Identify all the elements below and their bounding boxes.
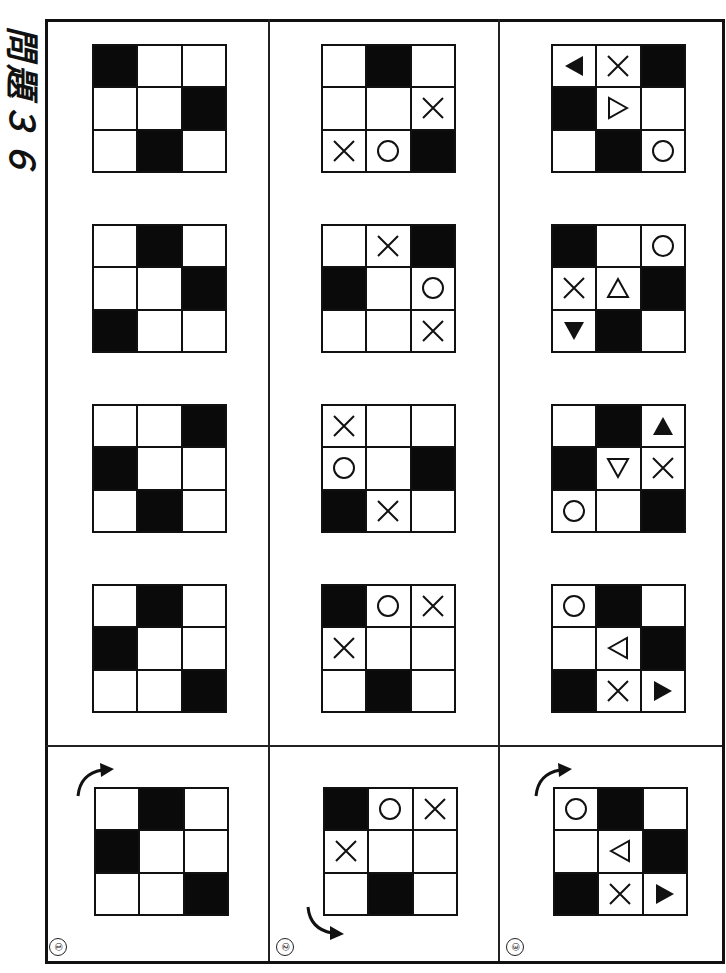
cross-icon — [559, 273, 589, 303]
option-grid-1-1[interactable] — [92, 44, 227, 173]
circle-icon — [329, 453, 359, 483]
white-cell — [642, 671, 684, 711]
white-cell — [96, 874, 138, 914]
black-cell — [183, 88, 225, 128]
circle-icon — [418, 273, 448, 303]
clockwise-arrow-icon — [74, 762, 118, 798]
black-cell — [642, 491, 684, 531]
option-grid-3-2[interactable] — [551, 224, 686, 353]
black-cell — [185, 874, 227, 914]
black-cell — [183, 406, 225, 446]
white-cell — [644, 789, 686, 829]
option-grid-3-3[interactable] — [551, 404, 686, 533]
option-grid-2-3[interactable] — [321, 404, 456, 533]
white-cell — [642, 406, 684, 446]
cross-icon — [603, 51, 633, 81]
white-cell — [183, 226, 225, 266]
black-cell — [138, 491, 180, 531]
white-cell — [94, 226, 136, 266]
column-divider — [268, 19, 270, 961]
white-cell — [642, 88, 684, 128]
white-cell — [553, 268, 595, 308]
black-cell — [553, 671, 595, 711]
white-cell — [138, 448, 180, 488]
black-cell — [138, 226, 180, 266]
white-cell — [94, 131, 136, 171]
cross-icon — [329, 411, 359, 441]
white-cell — [597, 88, 639, 128]
white-cell — [553, 46, 595, 86]
black-cell — [553, 448, 595, 488]
white-cell — [323, 46, 365, 86]
black-cell — [323, 491, 365, 531]
option-grid-2-2[interactable] — [321, 224, 456, 353]
white-cell — [642, 131, 684, 171]
white-cell — [183, 491, 225, 531]
option-grid-2-1[interactable] — [321, 44, 456, 173]
white-cell — [597, 628, 639, 668]
column-divider — [498, 19, 500, 961]
option-grid-3-1[interactable] — [551, 44, 686, 173]
black-cell — [94, 628, 136, 668]
black-cell — [599, 789, 641, 829]
option-grid-1-2[interactable] — [92, 224, 227, 353]
white-cell — [94, 586, 136, 626]
white-cell — [367, 491, 409, 531]
white-cell — [183, 311, 225, 351]
white-cell — [367, 131, 409, 171]
white-cell — [183, 628, 225, 668]
choice-number-2: ② — [276, 938, 294, 956]
counterclockwise-arrow-icon — [304, 905, 348, 941]
black-cell — [94, 448, 136, 488]
white-cell — [94, 491, 136, 531]
white-cell — [367, 88, 409, 128]
triangle-left-filled-icon — [559, 51, 589, 81]
option-grid-1-4[interactable] — [92, 584, 227, 713]
black-cell — [553, 88, 595, 128]
black-cell — [94, 311, 136, 351]
circle-icon — [561, 794, 591, 824]
clockwise-arrow-icon — [532, 762, 576, 798]
white-cell — [644, 874, 686, 914]
circle-icon — [373, 136, 403, 166]
white-cell — [94, 671, 136, 711]
black-cell — [553, 226, 595, 266]
black-cell — [555, 874, 597, 914]
white-cell — [323, 406, 365, 446]
white-cell — [183, 46, 225, 86]
option-grid-3-4[interactable] — [551, 584, 686, 713]
white-cell — [323, 131, 365, 171]
white-cell — [367, 268, 409, 308]
white-cell — [183, 586, 225, 626]
triangle-left-outline-icon — [605, 836, 635, 866]
white-cell — [414, 831, 456, 871]
black-cell — [323, 586, 365, 626]
page-title: 問題３６ — [2, 12, 42, 192]
circle-icon — [373, 591, 403, 621]
triangle-right-outline-icon — [603, 93, 633, 123]
white-cell — [412, 311, 454, 351]
white-cell — [642, 226, 684, 266]
white-cell — [597, 448, 639, 488]
white-cell — [94, 268, 136, 308]
white-cell — [414, 789, 456, 829]
triangle-down-outline-icon — [603, 453, 633, 483]
white-cell — [367, 311, 409, 351]
white-cell — [597, 226, 639, 266]
triangle-up-outline-icon — [603, 273, 633, 303]
circle-icon — [559, 591, 589, 621]
circle-icon — [559, 496, 589, 526]
white-cell — [369, 831, 411, 871]
white-cell — [553, 311, 595, 351]
option-grid-1-3[interactable] — [92, 404, 227, 533]
cross-icon — [418, 316, 448, 346]
white-cell — [94, 406, 136, 446]
circle-icon — [375, 794, 405, 824]
cross-icon — [329, 633, 359, 663]
black-cell — [642, 628, 684, 668]
white-cell — [323, 311, 365, 351]
option-grid-2-4[interactable] — [321, 584, 456, 713]
black-cell — [412, 448, 454, 488]
white-cell — [412, 88, 454, 128]
black-cell — [597, 406, 639, 446]
